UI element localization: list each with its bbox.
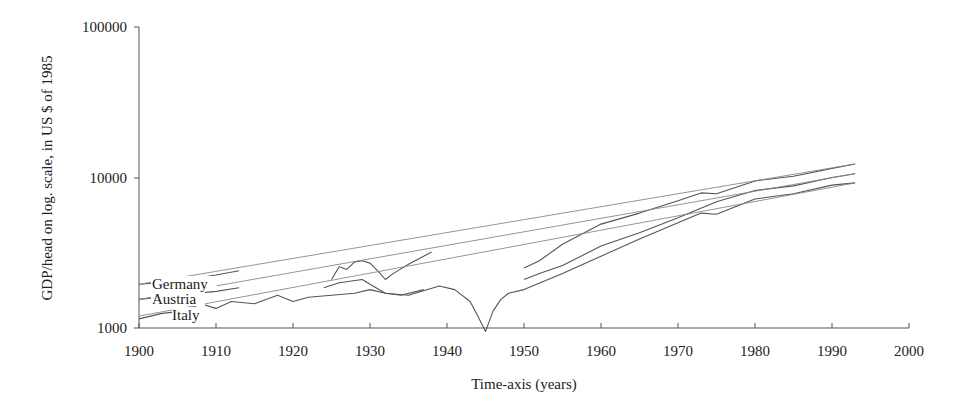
x-tick-label: 1960	[586, 343, 616, 359]
austria-trend-line	[139, 174, 855, 300]
y-tick-label: 10000	[90, 170, 128, 186]
x-axis	[139, 323, 909, 328]
germany-line	[332, 252, 432, 280]
italy-trend-line	[139, 183, 855, 316]
gdp-per-head-chart: 100000 10000 1000 1900 1910 1920 1930 19…	[0, 0, 967, 414]
x-tick-label: 1930	[355, 343, 385, 359]
y-tick-label: 1000	[97, 320, 127, 336]
italy-line	[139, 183, 855, 332]
series-label-germany: Germany	[152, 276, 208, 292]
y-tick-labels: 100000 10000 1000	[82, 19, 127, 336]
series-label-austria: Austria	[152, 291, 197, 307]
x-tick-label: 1970	[663, 343, 693, 359]
germany-trend-line	[139, 164, 855, 284]
x-tick-label: 1950	[509, 343, 539, 359]
x-axis-title: Time-axis (years)	[471, 376, 577, 393]
x-tick-label: 2000	[894, 343, 924, 359]
y-axis	[134, 27, 139, 328]
x-tick-label: 1980	[740, 343, 770, 359]
plot-area	[139, 164, 855, 331]
series-labels: Germany Austria Italy	[151, 276, 217, 323]
y-axis-title: GDP/head on log. scale, in US $ of 1985	[39, 56, 55, 301]
austria-line	[524, 174, 855, 280]
x-tick-label: 1920	[278, 343, 308, 359]
x-tick-label: 1900	[124, 343, 154, 359]
austria-line	[324, 280, 424, 296]
x-tick-labels: 1900 1910 1920 1930 1940 1950 1960 1970 …	[124, 343, 924, 359]
x-tick-label: 1990	[817, 343, 847, 359]
x-tick-label: 1940	[432, 343, 462, 359]
x-tick-label: 1910	[201, 343, 231, 359]
germany-line	[524, 164, 855, 268]
y-tick-label: 100000	[82, 19, 127, 35]
series-label-italy: Italy	[172, 307, 200, 323]
